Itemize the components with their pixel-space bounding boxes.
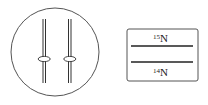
label-14n: 14N bbox=[153, 66, 168, 78]
chromosome-right bbox=[64, 19, 76, 83]
chromosome-left bbox=[38, 19, 50, 83]
centromere-left bbox=[38, 56, 50, 61]
cell-circle bbox=[11, 8, 99, 96]
label-15n: 15N bbox=[153, 32, 168, 44]
density-box: 15N 14N bbox=[127, 29, 198, 81]
diagram-canvas: 15N 14N bbox=[0, 0, 208, 105]
centromere-right bbox=[64, 56, 76, 61]
